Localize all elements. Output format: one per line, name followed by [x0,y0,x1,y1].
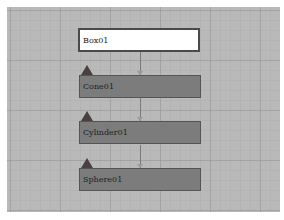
node-label: Box01 [83,36,108,45]
hierarchy-marker-icon [81,65,93,75]
node-cone01[interactable]: Cone01 [79,75,201,98]
node-label: Cone01 [83,82,114,91]
hierarchy-marker-icon [81,158,93,168]
node-label: Sphere01 [83,175,122,184]
node-box01[interactable]: Box01 [78,28,200,52]
hierarchy-marker-icon [81,111,93,121]
node-cylinder01[interactable]: Cylinder01 [79,121,201,144]
node-label: Cylinder01 [83,128,128,137]
node-sphere01[interactable]: Sphere01 [79,168,201,191]
